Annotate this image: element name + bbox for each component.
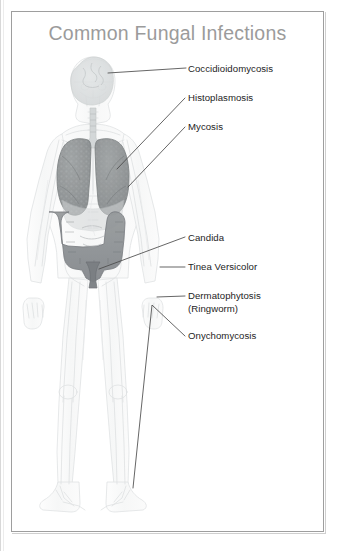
leader-line-histoplasmosis <box>117 98 185 169</box>
label-tinea-versicolor: Tinea Versicolor <box>188 261 257 274</box>
leader-line-onychomycosis <box>133 305 185 488</box>
label-dermatophytosis: Dermatophytosis (Ringworm) <box>188 290 261 315</box>
label-mycosis: Mycosis <box>188 121 223 134</box>
leader-line-coccidioidomycosis <box>108 68 186 73</box>
leader-lines-layer <box>0 0 339 551</box>
leader-line-dermatophytosis <box>157 296 185 297</box>
label-dermatophytosis-line1: Dermatophytosis <box>188 290 261 303</box>
diagram-page: Common Fungal Infections <box>0 0 339 551</box>
leader-line-mycosis <box>128 127 185 187</box>
label-onychomycosis: Onychomycosis <box>188 330 256 343</box>
label-coccidioidomycosis: Coccidioidomycosis <box>188 63 273 76</box>
label-dermatophytosis-line2: (Ringworm) <box>188 303 261 316</box>
leader-line-candida <box>99 237 185 269</box>
label-histoplasmosis: Histoplasmosis <box>188 92 253 105</box>
label-candida: Candida <box>188 232 224 245</box>
